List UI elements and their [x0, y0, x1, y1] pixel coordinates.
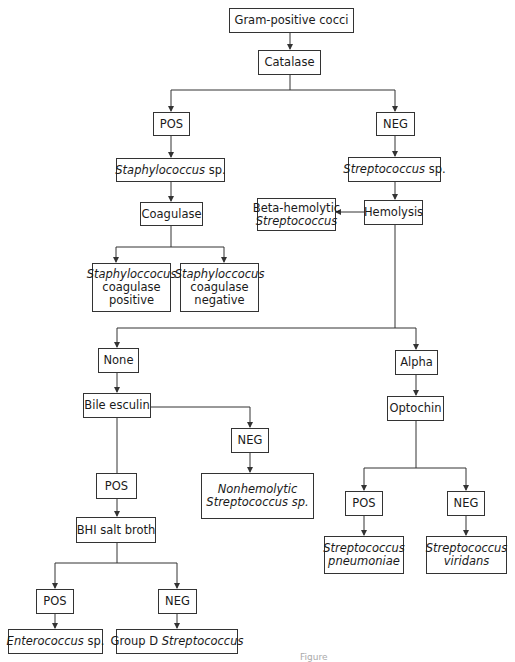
node-label: POS	[105, 480, 128, 493]
node-optochin-pos: POS	[345, 491, 383, 516]
figure-caption: Figure	[300, 652, 327, 662]
node-group-d-streptococcus: Group D Streptococcus	[116, 629, 238, 654]
node-bile-esculin: Bile esculin	[83, 393, 151, 418]
node-label-sp: sp.	[84, 635, 105, 648]
node-alpha: Alpha	[395, 350, 438, 375]
node-label: NEG	[165, 595, 190, 608]
node-label-line3: negative	[194, 294, 244, 307]
node-label: POS	[43, 595, 66, 608]
node-label-line2: pneumoniae	[328, 555, 400, 568]
node-label: Coagulase	[141, 208, 201, 221]
node-bhi-salt-broth: BHI salt broth	[76, 517, 156, 543]
node-label-line3: positive	[109, 294, 154, 307]
node-coagulase: Coagulase	[140, 202, 203, 226]
node-hemolysis: Hemolysis	[364, 200, 423, 225]
node-nonhemolytic-streptococcus: Nonhemolytic Streptococcus sp.	[201, 473, 314, 519]
node-streptococcus-viridans: Streptococcus viridans	[426, 536, 507, 574]
node-streptococcus-sp: Streptococcus sp.	[348, 157, 441, 182]
node-label: Alpha	[400, 356, 433, 369]
node-catalase: Catalase	[258, 50, 321, 75]
node-enterococcus-sp: Enterococcus sp.	[8, 629, 103, 654]
node-bhi-neg: NEG	[158, 589, 197, 614]
node-label: None	[103, 354, 133, 367]
node-label: BHI salt broth	[77, 524, 156, 537]
node-staph-coagulase-positive: Staphyloccocus coagulase positive	[92, 263, 171, 312]
node-label-genus: Enterococcus	[7, 635, 84, 648]
node-label-line2: viridans	[444, 555, 490, 568]
node-label: Bile esculin	[84, 399, 149, 412]
node-beta-hemolytic-streptococcus: Beta-hemolytic Streptococcus	[257, 198, 336, 231]
node-staph-coagulase-negative: Staphyloccocus coagulase negative	[180, 263, 259, 312]
node-label: Gram-positive cocci	[234, 14, 348, 27]
node-catalase-pos: POS	[153, 112, 190, 136]
node-label-sp: sp.	[205, 164, 226, 177]
node-label-group: Group D	[111, 635, 162, 648]
node-label: NEG	[238, 434, 263, 447]
node-label: POS	[160, 118, 183, 131]
node-bile-esculin-pos: POS	[96, 473, 137, 499]
node-bhi-pos: POS	[36, 589, 74, 614]
node-streptococcus-pneumoniae: Streptococcus pneumoniae	[324, 536, 404, 574]
node-label: Catalase	[265, 56, 315, 69]
node-none: None	[98, 348, 139, 373]
node-optochin: Optochin	[387, 396, 444, 421]
node-label-sp: sp.	[425, 163, 446, 176]
node-label-line1: Beta-hemolytic	[253, 202, 340, 215]
node-label: Optochin	[390, 402, 442, 415]
node-catalase-neg: NEG	[376, 112, 415, 136]
node-staphylococcus-sp: Staphylococcus sp.	[116, 158, 225, 182]
node-optochin-neg: NEG	[447, 491, 485, 516]
node-gram-positive-cocci: Gram-positive cocci	[229, 8, 354, 33]
node-label-line2: Streptococcus sp.	[206, 496, 308, 509]
node-label-line2: Streptococcus	[256, 215, 338, 228]
node-bile-esculin-neg: NEG	[231, 428, 269, 453]
node-label-genus: Staphylococcus	[115, 164, 205, 177]
node-label-genus: Streptococcus	[343, 163, 425, 176]
node-label: Hemolysis	[364, 206, 423, 219]
node-label: NEG	[454, 497, 479, 510]
node-label-genus: Streptococcus	[162, 635, 244, 648]
node-label: POS	[352, 497, 375, 510]
node-label: NEG	[383, 118, 408, 131]
